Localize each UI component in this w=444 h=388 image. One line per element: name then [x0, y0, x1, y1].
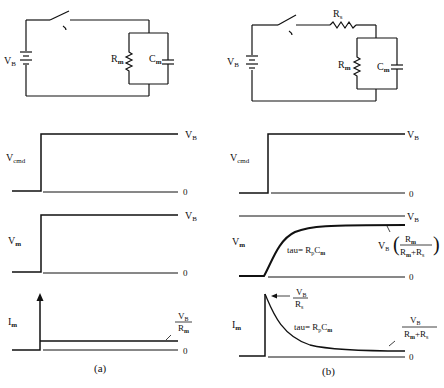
label-vm-high-a: VB — [185, 210, 197, 223]
svg-text:(: ( — [393, 233, 400, 256]
label-vm-steady-b: VB ( Rm Rm+Rs ) — [378, 233, 440, 258]
label-im-a: Im — [8, 316, 17, 329]
label-vcmd-zero-b: 0 — [409, 189, 414, 199]
label-tau-vm-b: tau= RpCm — [287, 245, 325, 256]
label-vcmd-high-b: VB — [407, 129, 419, 142]
label-cm-b: Cm — [377, 61, 390, 74]
label-im-steady-b: VB Rm+Rs — [402, 315, 437, 340]
label-im-steady-a: VB Rm — [175, 311, 192, 334]
switch-icon — [278, 15, 296, 25]
battery-icon — [20, 52, 32, 64]
label-cm-a: Cm — [149, 53, 162, 66]
label-vm-high-b: VB — [407, 211, 419, 224]
svg-text:Rm+Rs: Rm+Rs — [400, 247, 425, 258]
waveform-a-vm — [12, 215, 178, 273]
svg-text:Rm+Rs: Rm+Rs — [404, 329, 429, 340]
svg-text:VB: VB — [378, 240, 389, 252]
svg-text:Rs: Rs — [295, 299, 304, 310]
resistor-rm-icon — [354, 38, 360, 89]
label-rm-a: Rm — [111, 53, 124, 66]
label-vm-zero-b: 0 — [409, 272, 414, 282]
svg-text:Rm: Rm — [178, 323, 189, 334]
waveform-a-im — [12, 297, 178, 350]
waveform-a-vcmd — [12, 134, 178, 192]
peak-pointer-icon — [271, 294, 277, 299]
label-vm-zero-a: 0 — [183, 268, 188, 278]
svg-text:VB: VB — [178, 311, 189, 322]
label-vm-a: Vm — [8, 235, 21, 248]
label-tau-im-b: tau= RpCm — [294, 322, 332, 333]
resistor-rs-icon — [330, 22, 356, 28]
svg-text:VB: VB — [410, 315, 421, 326]
label-im-peak-b: VB Rs — [293, 287, 308, 310]
label-vb-b: VB — [227, 56, 239, 69]
label-im-zero-b: 0 — [409, 352, 414, 362]
label-vcmd-high-a: VB — [185, 129, 197, 142]
label-vcmd-b: Vcmd — [230, 152, 250, 165]
label-rs-b: Rs — [333, 8, 343, 21]
svg-text:VB: VB — [296, 287, 307, 298]
caption-b: (b) — [322, 365, 335, 378]
resistor-rm-icon — [126, 33, 132, 84]
label-vcmd-zero-a: 0 — [183, 187, 188, 197]
circuit-b — [246, 15, 403, 101]
switch-icon — [50, 11, 69, 20]
label-im-zero-a: 0 — [183, 346, 188, 356]
impulse-arrow-icon — [37, 293, 44, 301]
svg-text:Rm: Rm — [405, 234, 416, 245]
diagram-canvas: VB Rm Cm VB Rs Rm Cm Vcmd VB 0 Vm VB 0 I… — [0, 0, 444, 388]
caption-a: (a) — [94, 362, 107, 375]
waveform-b-vcmd — [239, 134, 405, 193]
label-rm-b: Rm — [338, 59, 351, 72]
label-vm-b: Vm — [232, 236, 245, 249]
label-vcmd-a: Vcmd — [6, 152, 26, 165]
battery-icon — [246, 56, 258, 68]
label-im-b: Im — [232, 319, 241, 332]
svg-text:): ) — [433, 233, 440, 256]
label-vb-a: VB — [4, 55, 16, 68]
